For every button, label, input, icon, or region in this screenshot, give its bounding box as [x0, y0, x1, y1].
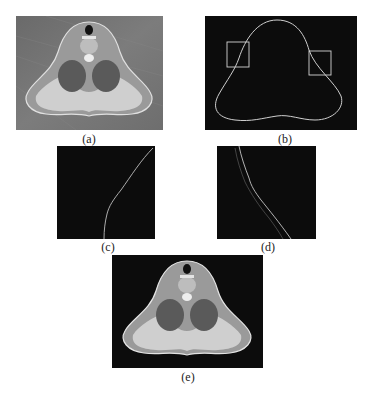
ct-slice-image	[16, 16, 163, 130]
panel-a-label: (a)	[69, 133, 109, 145]
panel-d-roi-right	[217, 146, 316, 239]
panel-b-label: (b)	[265, 133, 305, 145]
panel-c-label: (c)	[88, 241, 128, 253]
panel-b-contour	[205, 16, 357, 130]
segmented-ct-image	[112, 255, 263, 368]
panel-e-label: (e)	[168, 371, 208, 383]
roi-left-image	[57, 146, 155, 239]
panel-e-segmented-ct	[112, 255, 263, 368]
contour-image	[205, 16, 357, 130]
panel-a-original-ct	[16, 16, 163, 130]
panel-c-roi-left	[57, 146, 155, 239]
roi-right-image	[217, 146, 316, 239]
panel-d-label: (d)	[248, 241, 288, 253]
